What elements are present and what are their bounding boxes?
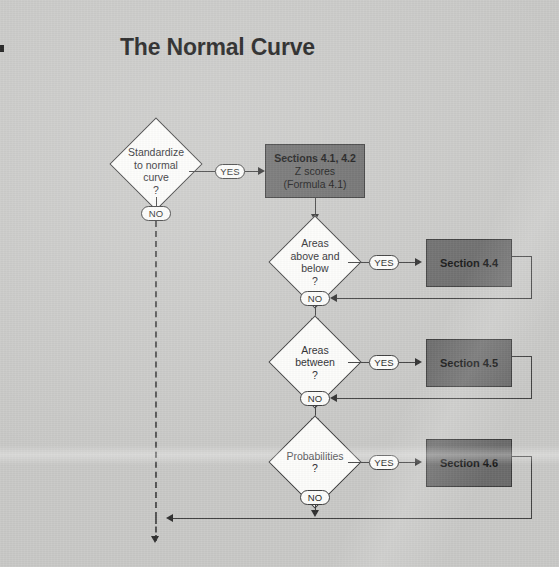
edge-p2-return-right [531,256,532,299]
edge-d1-no-stub [156,197,157,206]
edge-p4-return-top [512,456,532,457]
edge-d1-no-dashed-line [155,221,157,518]
process-section-44[interactable]: Section 4.4 [426,239,512,287]
process-section-46[interactable]: Section 4.6 [426,439,512,487]
edge-d2-no-pill: NO [300,291,330,306]
edge-p3-return-bottom [333,398,531,399]
page-title: The Normal Curve [120,34,315,61]
flowchart-page: The Normal Curve Standardize to normal c… [0,0,559,567]
edge-p2-return-arrowhead [330,294,337,302]
edge-d3-yes-line-a [348,362,369,363]
edge-d4-no-arrowhead [311,510,319,517]
edge-d1-yes-arrowhead [258,167,265,175]
edge-d1-yes-pill: YES [215,164,245,179]
page-edge-mark [0,45,4,52]
edge-d3-no-pill: NO [300,391,330,406]
edge-p2-return-top [512,256,532,257]
edge-d2-yes-pill: YES [369,255,399,270]
process-section-46-label: Section 4.6 [440,457,498,470]
edge-d4-yes-line-a [348,462,369,463]
edge-bottom-rail [172,518,531,519]
edge-d2-yes-line-a [348,262,369,263]
edge-d1-no-pill: NO [141,206,171,221]
process-section-44-label: Section 4.4 [440,257,498,270]
edge-p3-return-arrowhead [330,394,337,402]
edge-p3-return-top [512,356,532,357]
process-sections-41-42-line1: Sections 4.1, 4.2 [274,152,356,165]
edge-d3-yes-arrowhead [415,358,422,366]
edge-d1-yes-line-a [189,171,215,172]
process-sections-41-42-line2: Z scores [295,165,335,178]
edge-d4-no-pill: NO [300,490,330,505]
edge-exit-arrowhead [151,536,159,543]
process-section-45-label: Section 4.5 [440,357,498,370]
edge-d4-yes-arrowhead [415,458,422,466]
edge-p2-return-bottom [333,298,531,299]
edge-d2-yes-arrowhead [415,258,422,266]
edge-p4-return-right [531,456,532,519]
process-sections-41-42[interactable]: Sections 4.1, 4.2 Z scores (Formula 4.1) [265,144,365,198]
edge-bottom-rail-arrowhead [166,514,173,522]
edge-d4-yes-pill: YES [369,455,399,470]
process-section-45[interactable]: Section 4.5 [426,339,512,387]
edge-p3-return-right [531,356,532,399]
process-sections-41-42-line3: (Formula 4.1) [283,178,346,191]
edge-d3-yes-pill: YES [369,355,399,370]
